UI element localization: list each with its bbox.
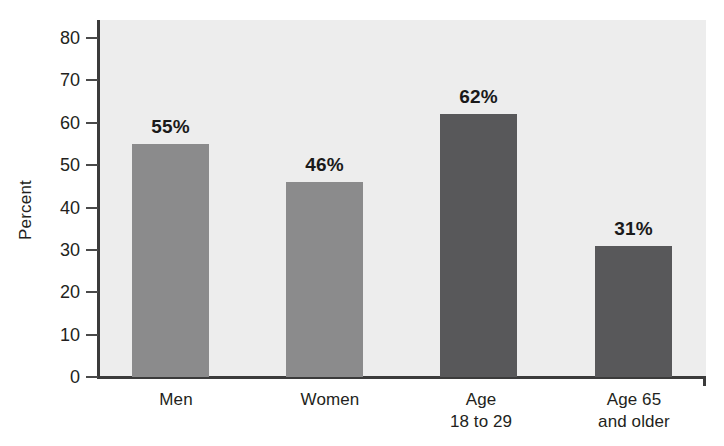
category-label-line: Women xyxy=(254,389,406,411)
bar-chart-figure: Percent 01020304050607080 55%46%62%31% M… xyxy=(0,0,724,446)
category-label: Men xyxy=(100,389,252,411)
bar-value-label: 55% xyxy=(132,117,209,136)
bar-value-label: 62% xyxy=(440,87,517,106)
category-label-line: Age xyxy=(405,389,557,411)
category-label-line: and older xyxy=(558,411,710,433)
bar-value-label: 31% xyxy=(595,219,672,238)
category-label: Age 65and older xyxy=(558,389,710,433)
category-label: Age18 to 29 xyxy=(405,389,557,433)
bar xyxy=(132,144,209,377)
x-axis-right-cap xyxy=(703,376,706,386)
bar-value-label: 46% xyxy=(286,155,363,174)
category-label-line: 18 to 29 xyxy=(405,411,557,433)
category-label-line: Age 65 xyxy=(558,389,710,411)
bar xyxy=(286,182,363,377)
category-label: Women xyxy=(254,389,406,411)
bar xyxy=(440,114,517,377)
bar xyxy=(595,246,672,377)
category-label-line: Men xyxy=(100,389,252,411)
bars-layer xyxy=(0,0,724,377)
